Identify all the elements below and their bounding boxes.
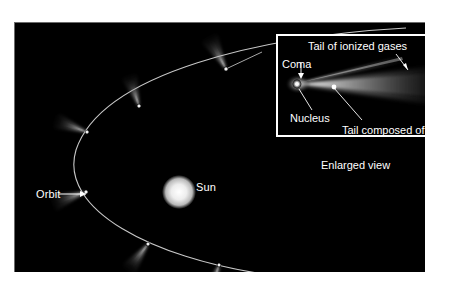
enlarged-view-inset: Tail of ionized gases Coma Nucleus Tail … xyxy=(276,34,425,137)
comet xyxy=(51,112,92,140)
enlarged-view-caption: Enlarged view xyxy=(321,159,390,171)
dust-tail-label: Tail composed of dust xyxy=(342,124,425,136)
coma-label: Coma xyxy=(282,58,311,70)
comet-orbit-figure: Orbit Sun xyxy=(0,0,465,287)
comet xyxy=(121,72,147,111)
nucleus-body xyxy=(293,80,302,89)
ion-tail-label: Tail of ionized gases xyxy=(308,40,407,52)
main-diagram-stage: Orbit Sun xyxy=(14,22,425,272)
dust-tail-marker xyxy=(332,85,337,90)
inset-connector-line xyxy=(228,52,262,68)
sun-label: Sun xyxy=(196,181,216,193)
sun-body xyxy=(162,175,196,209)
nucleus-label: Nucleus xyxy=(290,112,330,124)
orbit-label: Orbit xyxy=(36,188,60,200)
